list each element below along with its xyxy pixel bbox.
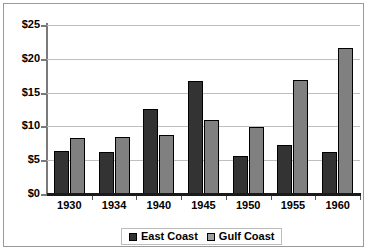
gridline	[47, 93, 360, 94]
bar-gulf-coast-1950	[249, 127, 264, 194]
x-tick-label: 1960	[315, 198, 360, 212]
x-tick-label: 1955	[271, 198, 316, 212]
bar-gulf-coast-1940	[159, 135, 174, 194]
x-tick-label: 1950	[226, 198, 271, 212]
x-axis-line	[47, 193, 361, 196]
x-tick-label: 1934	[92, 198, 137, 212]
legend-entry-gulf-coast: Gulf Coast	[207, 231, 275, 242]
legend-swatch-icon	[207, 233, 215, 241]
y-tick-label: $20	[6, 53, 40, 64]
chart-legend: East CoastGulf Coast	[121, 228, 282, 245]
legend-label: Gulf Coast	[219, 231, 275, 242]
x-tick-label: 1940	[136, 198, 181, 212]
bar-east-coast-1940	[143, 109, 158, 194]
chart-frame: $0$5$10$15$20$25 19301934194019451950195…	[3, 3, 364, 247]
y-tick-label: $0	[6, 188, 40, 199]
y-tick-label: $15	[6, 87, 40, 98]
y-tick-label: $5	[6, 154, 40, 165]
bar-east-coast-1955	[277, 145, 292, 194]
plot-area	[47, 25, 360, 194]
x-axis-labels: 1930193419401945195019551960	[47, 198, 360, 216]
bar-gulf-coast-1934	[115, 137, 130, 194]
bar-east-coast-1930	[54, 151, 69, 194]
bar-east-coast-1934	[99, 152, 114, 194]
legend-entry-east-coast: East Coast	[129, 231, 198, 242]
bar-gulf-coast-1955	[293, 80, 308, 194]
bar-gulf-coast-1960	[338, 48, 353, 194]
y-tick-label: $10	[6, 120, 40, 131]
x-tick-label: 1930	[47, 198, 92, 212]
gridline	[47, 59, 360, 60]
bar-gulf-coast-1945	[204, 120, 219, 194]
bar-gulf-coast-1930	[70, 138, 85, 194]
legend-swatch-icon	[129, 233, 137, 241]
x-tick-mark	[360, 196, 361, 200]
gridline	[47, 25, 360, 26]
x-tick-label: 1945	[181, 198, 226, 212]
y-axis-labels: $0$5$10$15$20$25	[4, 4, 40, 252]
bar-east-coast-1960	[322, 152, 337, 194]
bar-east-coast-1950	[233, 156, 248, 194]
legend-label: East Coast	[141, 231, 198, 242]
bar-east-coast-1945	[188, 81, 203, 194]
y-tick-label: $25	[6, 19, 40, 30]
